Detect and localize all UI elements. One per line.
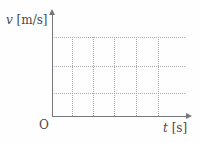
y-axis-unit: [m/s] <box>17 13 48 27</box>
gridline-vertical <box>158 37 159 116</box>
y-axis-label: v [m/s] <box>6 14 48 26</box>
velocity-time-graph: v [m/s] t [s] O <box>0 0 202 143</box>
x-axis-unit: [s] <box>172 121 188 135</box>
gridline-vertical <box>136 37 137 116</box>
x-axis-label: t [s] <box>163 122 187 134</box>
up-arrow-icon <box>49 9 55 15</box>
gridline-vertical <box>72 37 73 116</box>
x-axis-line <box>52 116 188 117</box>
gridline-vertical <box>114 37 115 116</box>
gridline-vertical <box>93 37 94 116</box>
y-axis-symbol: v <box>6 13 13 27</box>
y-axis-line <box>52 14 53 117</box>
right-arrow-icon <box>186 113 192 119</box>
origin-label: O <box>39 119 49 131</box>
